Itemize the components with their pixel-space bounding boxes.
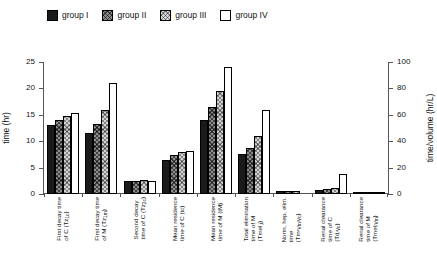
bar-group [235, 62, 273, 194]
axis-tick-label: 80 [390, 84, 437, 92]
legend-label: group IV [235, 11, 267, 20]
bar-group-ii [246, 148, 254, 194]
x-label-cell: Mean residencetime of M (tM) [197, 197, 235, 257]
x-label-cell: Second decaytime of C (Tz2c) [120, 197, 158, 257]
bar-group-iii [178, 152, 186, 194]
x-axis-category-labels: First decay timeof C (Tz1c)First decay t… [44, 197, 388, 257]
bar-group-i [315, 190, 323, 194]
bar-group-i [238, 154, 246, 194]
bar-group-iv [262, 110, 270, 194]
x-axis-label: Mean residencetime of C (tc) [171, 197, 185, 241]
x-label-cell: First decay timeof M (Tz1m) [82, 197, 120, 257]
bar-group-iii [331, 188, 339, 194]
legend-item-group-4: group IV [220, 10, 267, 21]
bar-group-ii [55, 120, 63, 194]
bar-group-iii [369, 192, 377, 194]
bar-group-i [353, 192, 361, 194]
axis-tick-label: 25 [0, 58, 42, 66]
x-label-cell: Mean residencetime of C (tc) [159, 197, 197, 257]
bar-group-ii [132, 181, 140, 194]
axis-tick-label: 0 [390, 190, 437, 198]
bar-group [273, 62, 311, 194]
x-label-cell: Renal clearancetime of M(Tmel/Vm) [350, 197, 388, 257]
bar-group [312, 62, 350, 194]
legend-item-group-2: group II [102, 10, 146, 21]
x-axis-label: Renal clearancetime of M(Tmel/Vm) [357, 197, 380, 242]
legend-label: group III [175, 11, 206, 20]
bar-group-iv [109, 83, 117, 194]
axis-tick-label: 20 [390, 164, 437, 172]
x-axis-label: Second decaytime of C (Tz2c) [131, 197, 147, 240]
bar-groups [44, 62, 388, 194]
bar-group [44, 62, 82, 194]
legend-label: group I [62, 11, 88, 20]
bar-group-iv [71, 113, 79, 194]
bar-group-iii [63, 116, 71, 194]
bar-group-iv [186, 151, 194, 194]
right-axis-label: time/volume (hr/L) [425, 94, 435, 163]
bar-group-i [162, 160, 170, 194]
bar-group-ii [361, 192, 369, 194]
bar-group-iv [377, 192, 385, 194]
plot-area: 0510152025 020406080100 time (hr) time/v… [44, 62, 388, 194]
bar-group-ii [323, 189, 331, 194]
axis-tick-label: 0 [0, 190, 42, 198]
bar-group-i [200, 120, 208, 194]
x-label-cell: Renal clearancetime of C(Td/Vc) [312, 197, 350, 257]
x-label-cell: Norm. hep. elim.time(Tm*Vm/Vc) [273, 197, 311, 257]
bar-group-i [47, 125, 55, 194]
light-hatch-swatch-icon [160, 10, 171, 21]
bar-group-i [124, 181, 132, 194]
white-swatch-icon [220, 10, 231, 21]
dark-hatch-swatch-icon [102, 10, 113, 21]
legend-item-group-3: group III [160, 10, 206, 21]
bar-group-iii [101, 110, 109, 194]
legend-label: group II [117, 11, 146, 20]
bar-group-iii [292, 191, 300, 194]
bar-group-iii [216, 91, 224, 194]
bar-group-iv [339, 174, 347, 194]
x-axis-label: First decay timeof C (Tz1c) [55, 197, 71, 241]
x-axis-label: First decay timeof M (Tz1m) [93, 197, 109, 241]
axis-tick-label: 20 [0, 84, 42, 92]
bar-group-ii [93, 124, 101, 194]
bar-group [197, 62, 235, 194]
bar-group-iii [140, 180, 148, 194]
bar-group-iv [148, 181, 156, 194]
bar-group [350, 62, 388, 194]
axis-tick-label: 100 [390, 58, 437, 66]
bar-group-ii [208, 107, 216, 194]
axis-tick-label: 5 [0, 164, 42, 172]
bar-group-i [276, 191, 284, 194]
bar-group-iv [224, 67, 232, 194]
solid-black-swatch-icon [47, 10, 58, 21]
x-label-cell: First decay timeof C (Tz1c) [44, 197, 82, 257]
bar-group-ii [284, 191, 292, 194]
x-label-cell: Total eliminationtime of M(Tmel,t) [235, 197, 273, 257]
x-axis-label: Mean residencetime of M (tM) [209, 197, 223, 241]
x-axis-label: Renal clearancetime of C(Td/Vc) [319, 197, 342, 242]
x-axis-label: Total eliminationtime of M(Tmel,t) [242, 197, 265, 241]
bar-group-ii [170, 155, 178, 194]
bar-group [82, 62, 120, 194]
bar-group [159, 62, 197, 194]
right-axis-line [388, 62, 389, 195]
bar-group-iii [254, 136, 262, 194]
left-axis-label: time (hr) [1, 112, 11, 144]
legend-item-group-1: group I [47, 10, 88, 21]
x-axis-label: Norm. hep. elim.time(Tm*Vm/Vc) [281, 197, 304, 242]
legend: group I group II group III group IV [47, 10, 268, 21]
bar-group-i [85, 133, 93, 194]
bar-group [120, 62, 158, 194]
